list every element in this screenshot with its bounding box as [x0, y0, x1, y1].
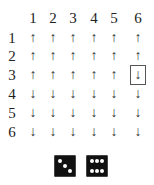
arrow-down-icon[interactable]: ↓ [25, 86, 41, 102]
row-header: 6 [4, 124, 20, 140]
arrow-up-icon[interactable]: ↑ [106, 67, 122, 83]
arrow-down-icon[interactable]: ↓ [86, 124, 102, 140]
column-header: 4 [86, 10, 102, 26]
column-header: 6 [130, 10, 146, 26]
arrow-up-icon[interactable]: ↑ [86, 30, 102, 46]
arrow-down-icon[interactable]: ↓ [65, 124, 81, 140]
arrow-up-icon[interactable]: ↑ [65, 67, 81, 83]
highlighted-cell-arrow-down-icon[interactable]: ↓ [130, 65, 146, 85]
arrow-up-icon[interactable]: ↑ [106, 48, 122, 64]
arrow-down-icon[interactable]: ↓ [86, 86, 102, 102]
arrow-up-icon[interactable]: ↑ [45, 30, 61, 46]
arrow-up-icon[interactable]: ↑ [130, 48, 146, 64]
arrow-up-icon[interactable]: ↑ [25, 48, 41, 64]
arrow-down-icon[interactable]: ↓ [25, 124, 41, 140]
row-header: 2 [4, 48, 20, 64]
arrow-up-icon[interactable]: ↑ [65, 30, 81, 46]
pip [90, 169, 94, 173]
pip [95, 169, 99, 173]
arrow-up-icon[interactable]: ↑ [45, 67, 61, 83]
pip [68, 169, 72, 173]
die-six-icon[interactable] [86, 155, 108, 177]
arrow-up-icon[interactable]: ↑ [130, 30, 146, 46]
column-header: 1 [25, 10, 41, 26]
arrow-up-icon[interactable]: ↑ [25, 30, 41, 46]
arrow-up-icon[interactable]: ↑ [86, 48, 102, 64]
arrow-down-icon[interactable]: ↓ [130, 124, 146, 140]
pip [95, 159, 99, 163]
pip [58, 159, 62, 163]
arrow-down-icon[interactable]: ↓ [25, 105, 41, 121]
pip [100, 159, 104, 163]
pip [90, 159, 94, 163]
arrow-down-icon[interactable]: ↓ [45, 105, 61, 121]
arrow-up-icon[interactable]: ↑ [86, 67, 102, 83]
column-header: 2 [45, 10, 61, 26]
arrow-up-icon[interactable]: ↑ [106, 30, 122, 46]
arrow-down-icon[interactable]: ↓ [106, 86, 122, 102]
pip [100, 169, 104, 173]
arrow-down-icon[interactable]: ↓ [65, 105, 81, 121]
die-three-icon[interactable] [54, 155, 76, 177]
row-header: 1 [4, 30, 20, 46]
arrow-down-icon[interactable]: ↓ [65, 86, 81, 102]
arrow-down-icon[interactable]: ↓ [106, 105, 122, 121]
arrow-up-icon[interactable]: ↑ [65, 48, 81, 64]
arrow-down-icon[interactable]: ↓ [130, 105, 146, 121]
arrow-down-icon[interactable]: ↓ [106, 124, 122, 140]
row-header: 3 [4, 67, 20, 83]
row-header: 5 [4, 105, 20, 121]
arrow-down-icon[interactable]: ↓ [45, 86, 61, 102]
arrow-up-icon[interactable]: ↑ [25, 67, 41, 83]
column-header: 3 [65, 10, 81, 26]
row-header: 4 [4, 86, 20, 102]
pip [63, 164, 67, 168]
column-header: 5 [106, 10, 122, 26]
arrow-down-icon[interactable]: ↓ [130, 86, 146, 102]
arrow-down-icon[interactable]: ↓ [45, 124, 61, 140]
arrow-down-icon[interactable]: ↓ [86, 105, 102, 121]
arrow-up-icon[interactable]: ↑ [45, 48, 61, 64]
